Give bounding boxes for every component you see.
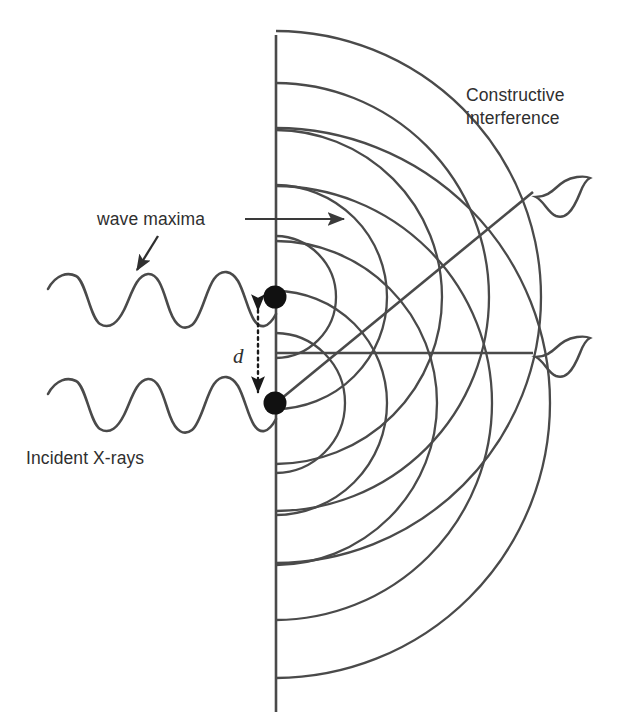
constructive-interference-line2: interference xyxy=(466,108,560,128)
d-spacing-label: d xyxy=(233,344,244,369)
upper-intensity-peak xyxy=(536,177,590,217)
upper-incident-wave xyxy=(48,272,276,328)
incident-xrays-label: Incident X-rays xyxy=(26,447,144,470)
xray-diffraction-diagram: Constructiveinterference wave maxima Inc… xyxy=(0,0,617,725)
lower-incident-wave xyxy=(48,377,276,433)
constructive-interference-line1: Constructive xyxy=(466,85,564,105)
wave-maxima-pointer-arrow xyxy=(137,236,158,270)
constructive-interference-label: Constructiveinterference xyxy=(466,84,564,130)
lower-atom xyxy=(264,392,287,415)
wave-maxima-label: wave maxima xyxy=(97,208,205,231)
upper-atom xyxy=(264,286,287,309)
